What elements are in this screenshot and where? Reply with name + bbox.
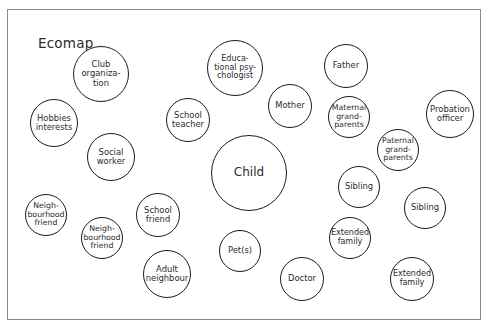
ecomap-node[interactable]: Maternal grand- parents <box>328 96 370 138</box>
ecomap-node[interactable]: Extended family <box>329 217 371 259</box>
ecomap-canvas: Ecomap Club organiza- tionEduca- tional … <box>0 0 492 329</box>
ecomap-node-label: Social worker <box>96 148 127 167</box>
ecomap-node-label: Hobbies interests <box>35 114 74 133</box>
diagram-frame: Ecomap Club organiza- tionEduca- tional … <box>7 9 481 320</box>
ecomap-node-label: Extended family <box>330 229 370 247</box>
ecomap-node-label: Paternal grand- parents <box>381 137 415 163</box>
ecomap-node[interactable]: School friend <box>136 193 180 237</box>
ecomap-node[interactable]: Doctor <box>280 257 324 301</box>
ecomap-node-label: Maternal grand- parents <box>331 104 367 130</box>
ecomap-node-label: Neigh- bourhood friend <box>82 225 121 251</box>
ecomap-node[interactable]: Child <box>211 135 287 211</box>
ecomap-node-label: Pet(s) <box>227 246 253 255</box>
ecomap-node[interactable]: Mother <box>268 84 312 128</box>
ecomap-node[interactable]: Paternal grand- parents <box>377 129 419 171</box>
ecomap-node-label: Adult neighbour <box>145 265 190 284</box>
ecomap-node[interactable]: Probation officer <box>426 90 474 138</box>
ecomap-node[interactable]: Extended family <box>390 257 434 301</box>
ecomap-node[interactable]: Neigh- bourhood friend <box>81 217 123 259</box>
ecomap-node[interactable]: School teacher <box>166 98 210 142</box>
ecomap-node-label: Mother <box>274 101 306 110</box>
ecomap-node-label: Extended family <box>392 270 432 288</box>
ecomap-node-label: Probation officer <box>429 105 471 124</box>
ecomap-node-label: Father <box>332 61 360 70</box>
ecomap-node-label: Doctor <box>287 274 317 283</box>
ecomap-node-label: Sibling <box>410 203 440 212</box>
ecomap-node-label: Sibling <box>344 182 374 191</box>
ecomap-node-label: Child <box>233 166 265 179</box>
ecomap-node[interactable]: Hobbies interests <box>30 99 78 147</box>
ecomap-node-label: Educa- tional psy- chologist <box>213 55 257 82</box>
diagram-title: Ecomap <box>38 35 93 51</box>
ecomap-node-label: School friend <box>143 206 173 225</box>
ecomap-node[interactable]: Educa- tional psy- chologist <box>207 40 263 96</box>
ecomap-node-label: Club organiza- tion <box>80 60 121 88</box>
ecomap-node[interactable]: Sibling <box>338 166 380 208</box>
ecomap-node[interactable]: Social worker <box>87 133 135 181</box>
ecomap-node[interactable]: Neigh- bourhood friend <box>25 194 67 236</box>
ecomap-node[interactable]: Sibling <box>404 187 446 229</box>
ecomap-node-label: School teacher <box>171 111 205 130</box>
ecomap-node[interactable]: Adult neighbour <box>143 250 191 298</box>
ecomap-node[interactable]: Club organiza- tion <box>73 46 129 102</box>
ecomap-node[interactable]: Father <box>324 44 368 88</box>
ecomap-node-label: Neigh- bourhood friend <box>26 202 65 228</box>
ecomap-node[interactable]: Pet(s) <box>219 230 261 272</box>
